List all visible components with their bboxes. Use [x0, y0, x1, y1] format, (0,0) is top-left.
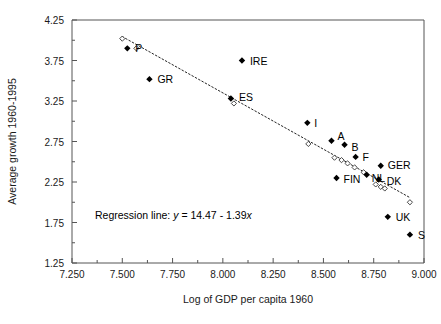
y-tick-label: 1.25 — [45, 258, 65, 269]
fitted-point-marker — [407, 200, 412, 205]
x-tick-label: 8.250 — [261, 269, 286, 280]
data-point-marker — [378, 163, 384, 169]
data-point-label: B — [352, 141, 359, 153]
data-point-marker — [146, 76, 152, 82]
data-point-marker — [407, 231, 413, 237]
y-tick-label: 2.75 — [45, 137, 65, 148]
x-tick-label: 8.000 — [210, 269, 235, 280]
fitted-point-marker — [306, 141, 311, 146]
data-point-label: S — [418, 229, 425, 241]
data-point-marker — [304, 120, 310, 126]
axis-frame-top-right — [72, 20, 424, 263]
data-point-marker — [124, 45, 130, 51]
data-point-label: FIN — [344, 173, 361, 185]
data-point-label: I — [314, 117, 317, 129]
y-tick-label: 3.25 — [45, 96, 65, 107]
fitted-point-marker — [231, 101, 236, 106]
x-tick-label: 9.000 — [411, 269, 436, 280]
y-tick-label: 3.75 — [45, 56, 65, 67]
data-point-marker — [341, 142, 347, 148]
data-point-marker — [328, 137, 334, 143]
data-point-label: GR — [157, 73, 173, 85]
x-tick-label: 7.250 — [59, 269, 84, 280]
x-axis-title: Log of GDP per capita 1960 — [183, 293, 313, 305]
regression-annotation: Regression line: y = 14.47 - 1.39x — [95, 209, 252, 221]
data-point-marker — [239, 57, 245, 63]
x-tick-label: 7.500 — [110, 269, 135, 280]
x-tick-label: 8.750 — [361, 269, 386, 280]
data-point-label: IRE — [250, 55, 268, 67]
data-point-label: F — [363, 151, 369, 163]
scatter-plot-figure: 7.2507.5007.7508.0008.2508.5008.7509.000… — [0, 0, 441, 324]
data-point-label: DK — [387, 175, 402, 187]
fitted-point-marker — [339, 158, 344, 163]
plot-canvas: 7.2507.5007.7508.0008.2508.5008.7509.000… — [0, 0, 441, 324]
data-point-marker — [352, 154, 358, 160]
x-tick-label: 8.500 — [311, 269, 336, 280]
data-point-label: UK — [396, 211, 411, 223]
data-point-label: GER — [388, 159, 411, 171]
y-tick-label: 2.25 — [45, 177, 65, 188]
data-point-label: ES — [239, 91, 253, 103]
data-point-label: P — [135, 42, 142, 54]
fitted-point-marker — [120, 36, 125, 41]
data-point-label: A — [337, 130, 344, 142]
data-point-marker — [333, 175, 339, 181]
x-tick-label: 7.750 — [160, 269, 185, 280]
axis-frame-left-bottom — [72, 20, 424, 263]
y-tick-label: 1.75 — [45, 218, 65, 229]
y-tick-label: 4.25 — [45, 15, 65, 26]
data-point-marker — [385, 214, 391, 220]
y-axis-title: Average growth 1960-1995 — [6, 78, 18, 205]
fitted-point-marker — [332, 155, 337, 160]
